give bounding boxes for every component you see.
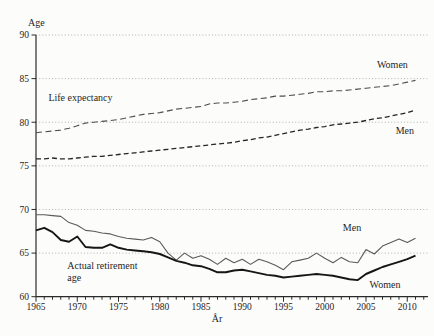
x-tick-label: 2005 [357,302,376,312]
y-tick-label: 65 [20,248,30,258]
line-chart: 6065707580859019651970197519801985199019… [0,0,434,336]
y-tick-label: 90 [20,30,30,40]
x-tick-label: 1995 [274,302,293,312]
x-tick-label: 1985 [192,302,211,312]
y-tick-label: 75 [20,161,30,171]
x-tick-label: 1965 [27,302,46,312]
series-life-expectancy-women [36,80,416,132]
x-tick-label: 1975 [109,302,128,312]
annotation-women: Women [377,59,408,70]
x-tick-label: 1980 [150,302,169,312]
annotation-actual-retirement: Actual retirement [67,260,137,271]
annotation-women: Women [370,279,401,290]
y-tick-label: 70 [20,205,30,215]
y-tick-label: 60 [20,292,30,302]
annotation-age: age [67,272,81,283]
annotation-life-expectancy: Life expectancy [48,92,112,103]
annotation-men: Men [396,125,414,136]
series-life-expectancy-men [36,110,416,159]
x-tick-label: 1970 [68,302,87,312]
x-tick-label: 1990 [233,302,252,312]
y-tick-label: 80 [20,118,30,128]
x-axis-title: År [212,313,223,324]
annotation-men: Men [343,222,361,233]
series-actual-retirement-age-women [36,228,416,280]
chart-figure: 6065707580859019651970197519801985199019… [0,0,434,336]
y-tick-label: 85 [20,74,30,84]
x-tick-label: 2000 [315,302,334,312]
x-tick-label: 2010 [398,302,417,312]
y-axis-title: Age [28,17,45,28]
